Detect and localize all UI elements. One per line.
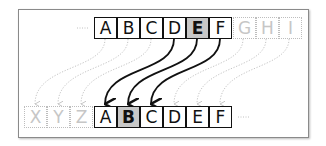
bottom-cell-b-highlighted: B: [117, 106, 140, 128]
top-cell-d: D: [163, 17, 186, 39]
top-cell-b: B: [117, 17, 140, 39]
top-cell-e-highlighted: E: [186, 17, 209, 39]
bottom-cell-f: F: [209, 106, 232, 128]
top-cell-i-ghost: I: [279, 17, 302, 39]
bottom-cell-z-ghost: Z: [70, 106, 93, 128]
bottom-cell-e: E: [186, 106, 209, 128]
top-cell-h-ghost: H: [256, 17, 279, 39]
bottom-cell-a: A: [94, 106, 117, 128]
bottom-cell-y-ghost: Y: [47, 106, 70, 128]
arrow-d-to-a: [105, 39, 174, 104]
top-cell-f: F: [209, 17, 232, 39]
top-cell-g-ghost: G: [233, 17, 256, 39]
bottom-cell-d: D: [163, 106, 186, 128]
top-cell-c: C: [140, 17, 163, 39]
solid-shift-arrows: [105, 39, 220, 104]
top-cell-a: A: [94, 17, 117, 39]
bottom-cell-x-ghost: X: [24, 106, 47, 128]
bottom-cell-c: C: [140, 106, 163, 128]
